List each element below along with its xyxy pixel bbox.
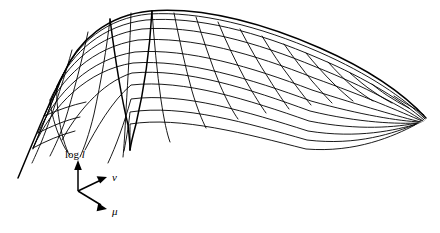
log-l-axis-label-symbol: l — [82, 148, 85, 160]
mesh-v-curve — [124, 110, 416, 151]
mesh-notch-left — [110, 19, 130, 150]
mesh-mu-curve-inner — [50, 100, 70, 155]
nu-axis-label: ν — [112, 171, 117, 183]
mu-axis-arrowhead — [97, 203, 107, 211]
mesh-mu-curve — [240, 29, 289, 109]
mesh-v-curve — [85, 84, 418, 150]
nu-axis-arrowhead — [97, 176, 107, 183]
mesh-v-curve — [62, 72, 419, 140]
surface-plot-figure: log l ν μ — [0, 0, 440, 233]
mu-axis-label: μ — [111, 205, 118, 217]
mesh-v-curve-front — [130, 122, 415, 150]
log-l-axis-label-prefix: log — [65, 148, 80, 160]
log-l-axis-arrowhead — [74, 160, 82, 170]
nu-axis-line — [78, 180, 101, 191]
mesh-notch-right — [130, 11, 152, 150]
mesh-ridge-top — [63, 10, 426, 118]
mu-axis-line — [78, 191, 101, 205]
log-l-axis-label: log l — [65, 148, 85, 160]
